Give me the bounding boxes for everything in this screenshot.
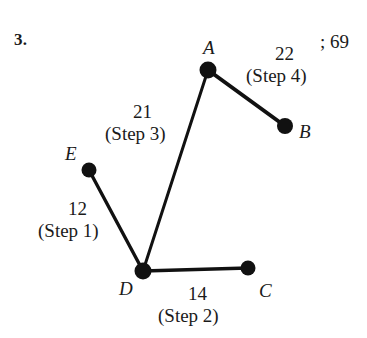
node-label-D: D <box>119 279 133 298</box>
node-D <box>135 263 152 280</box>
edge-D-A <box>143 70 208 271</box>
node-label-A: A <box>203 38 215 57</box>
answer-note: ; 69 <box>320 32 349 51</box>
node-E <box>82 163 97 178</box>
graph-nodes <box>82 62 294 280</box>
edge-weight-D-C: 14 <box>188 284 207 303</box>
node-A <box>200 62 217 79</box>
edge-step-A-B: (Step 4) <box>246 66 307 85</box>
edge-step-D-A: (Step 3) <box>105 124 166 143</box>
node-label-C: C <box>259 281 272 300</box>
node-label-B: B <box>299 122 311 141</box>
edge-step-D-C: (Step 2) <box>158 306 219 325</box>
edge-weight-A-B: 22 <box>275 44 294 63</box>
figure-canvas: 3. ; 69 A B C D E 12 (Step 1) 14 (Step 2… <box>0 0 367 338</box>
node-B <box>277 118 293 134</box>
edge-step-E-D: (Step 1) <box>38 221 99 240</box>
edge-weight-D-A: 21 <box>133 102 152 121</box>
edge-D-C <box>143 268 248 271</box>
graph-diagram <box>0 0 367 338</box>
node-C <box>241 261 256 276</box>
graph-edges <box>89 70 285 271</box>
problem-number: 3. <box>14 31 27 48</box>
edge-weight-E-D: 12 <box>68 199 87 218</box>
node-label-E: E <box>65 144 77 163</box>
